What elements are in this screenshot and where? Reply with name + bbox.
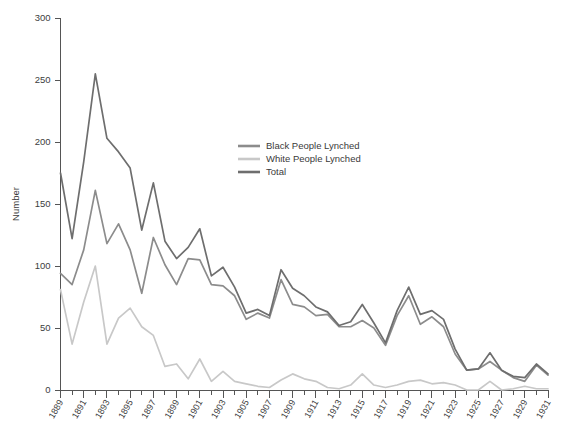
x-tick-label: 1909	[279, 398, 298, 420]
legend-label-1: White People Lynched	[266, 153, 361, 164]
y-tick-label: 200	[35, 136, 51, 147]
x-tick-label: 1907	[255, 398, 274, 420]
data-series-group	[61, 74, 549, 390]
x-tick-label: 1919	[395, 398, 414, 420]
x-tick-label: 1913	[325, 398, 344, 420]
x-tick-label: 1889	[47, 398, 66, 420]
x-tick-label: 1929	[511, 398, 530, 420]
x-tick-label: 1901	[186, 398, 205, 420]
x-tick-label: 1931	[534, 398, 553, 420]
chart-legend: Black People LynchedWhite People Lynched…	[238, 140, 361, 177]
y-tick-label: 0	[45, 384, 50, 395]
x-axis-ticks: 1889189118931895189718991901190319051907…	[47, 390, 553, 420]
series-line-2	[61, 74, 549, 378]
x-tick-label: 1903	[209, 398, 228, 420]
x-tick-label: 1915	[348, 398, 367, 420]
y-tick-label: 300	[35, 12, 51, 23]
y-tick-label: 100	[35, 260, 51, 271]
x-tick-label: 1911	[302, 398, 320, 420]
x-tick-label: 1921	[418, 398, 437, 420]
y-axis-title: Number	[10, 187, 21, 221]
x-tick-label: 1891	[70, 398, 89, 420]
x-tick-label: 1893	[93, 398, 112, 420]
y-axis-ticks: 050100150200250300	[35, 12, 61, 395]
legend-label-2: Total	[266, 166, 286, 177]
x-tick-label: 1927	[488, 398, 507, 420]
lynching-statistics-chart: 050100150200250300 188918911893189518971…	[0, 0, 561, 442]
x-tick-label: 1895	[116, 398, 135, 420]
chart-plot-area: 050100150200250300 188918911893189518971…	[0, 0, 561, 442]
y-tick-label: 250	[35, 74, 51, 85]
series-line-1	[61, 266, 549, 390]
y-tick-label: 50	[40, 322, 51, 333]
x-tick-label: 1899	[163, 398, 182, 420]
x-tick-label: 1897	[139, 398, 158, 420]
x-tick-label: 1925	[464, 398, 483, 420]
x-tick-label: 1917	[372, 398, 391, 420]
series-line-0	[61, 190, 549, 381]
x-tick-label: 1923	[441, 398, 460, 420]
y-tick-label: 150	[35, 198, 51, 209]
x-tick-label: 1905	[232, 398, 251, 420]
legend-label-0: Black People Lynched	[266, 140, 360, 151]
